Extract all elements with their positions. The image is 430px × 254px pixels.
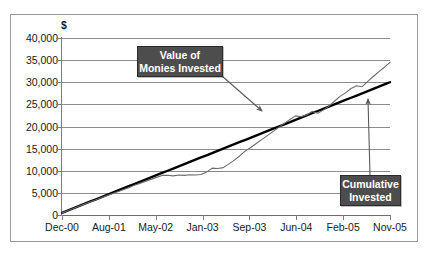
y-tick-mark [56,38,62,39]
chart-root: $ 05,00010,00015,00020,00025,00030,00035… [0,0,430,254]
x-tick-mark [62,215,63,220]
callout-cumulative-invested[interactable]: Cumulative Invested [340,175,401,206]
callout-cumulative-line2: Invested [349,191,392,204]
x-tick-mark [249,215,250,220]
x-tick-mark [109,215,110,220]
x-tick-mark [156,215,157,220]
y-tick-mark [56,82,62,83]
annotation-arrow-layer [0,0,430,254]
x-tick-mark [203,215,204,220]
callout-value-of-monies-invested[interactable]: Value of Monies Invested [137,46,223,77]
y-tick-mark [56,149,62,150]
x-tick-mark [343,215,344,220]
callout-cumulative-line1: Cumulative [342,178,399,191]
callout-value-line2: Monies Invested [139,62,221,75]
callout-value-line1: Value of [160,49,200,62]
annotation-arrow-cumulative-invested [368,99,370,175]
y-tick-mark [56,104,62,105]
y-tick-mark [56,193,62,194]
y-tick-mark [56,60,62,61]
x-tick-mark [390,215,391,220]
y-tick-mark [56,171,62,172]
x-tick-mark [296,215,297,220]
annotation-arrow-value-of-monies-invested [222,76,262,111]
y-tick-mark [56,127,62,128]
